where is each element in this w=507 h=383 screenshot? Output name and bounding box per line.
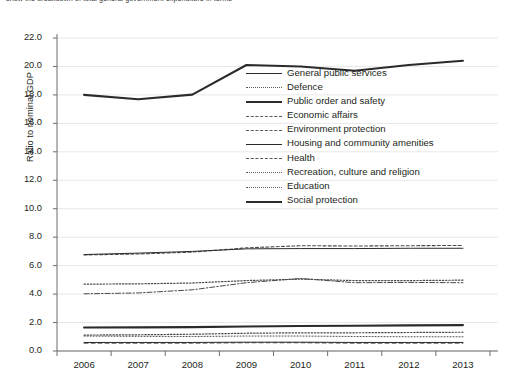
legend-item-label: Environment protection: [287, 122, 386, 136]
legend-item-label: Health: [287, 151, 315, 165]
x-axis-tick-label: 2013: [443, 360, 483, 370]
x-axis-tick-label: 2009: [226, 360, 266, 370]
legend-item[interactable]: Social protection: [246, 194, 434, 208]
y-axis-tick-label: 18.0: [8, 90, 42, 99]
legend-item-label: General public services: [287, 66, 387, 80]
y-axis-tick-label: 8.0: [8, 232, 42, 241]
y-axis-tick-label: 22.0: [8, 33, 42, 42]
chart-legend: General public servicesDefencePublic ord…: [246, 66, 434, 208]
legend-item[interactable]: Economic affairs: [246, 109, 434, 123]
legend-item[interactable]: Public order and safety: [246, 94, 434, 108]
legend-swatch-icon: [246, 153, 282, 163]
legend-item[interactable]: Environment protection: [246, 123, 434, 137]
x-axis-tick-label: 2006: [64, 360, 104, 370]
legend-item[interactable]: Housing and community amenities: [246, 137, 434, 151]
legend-item-label: Recreation, culture and religion: [287, 165, 420, 179]
chart-series-line: [84, 245, 463, 255]
chart-series-line: [84, 336, 463, 337]
legend-item-label: Housing and community amenities: [287, 136, 434, 150]
legend-item[interactable]: Recreation, culture and religion: [246, 165, 434, 179]
chart-series-line: [84, 278, 463, 293]
legend-swatch-icon: [246, 111, 282, 121]
x-axis-tick-label: 2010: [281, 360, 321, 370]
chart-series-line: [84, 325, 463, 327]
y-axis-tick-label: 2.0: [8, 318, 42, 327]
chart-series-line: [84, 332, 463, 335]
legend-item-label: Economic affairs: [287, 108, 358, 122]
y-axis-tick-label: 10.0: [8, 204, 42, 213]
legend-item[interactable]: Defence: [246, 80, 434, 94]
y-axis-tick-label: 12.0: [8, 175, 42, 184]
legend-swatch-icon: [246, 167, 282, 177]
x-axis-tick-label: 2008: [172, 360, 212, 370]
legend-swatch-icon: [246, 96, 282, 106]
legend-item-label: Social protection: [287, 193, 358, 207]
legend-swatch-icon: [246, 82, 282, 92]
x-axis-tick-label: 2012: [389, 360, 429, 370]
legend-item[interactable]: Health: [246, 151, 434, 165]
legend-swatch-icon: [246, 139, 282, 149]
chart-figure: Ratio to nominal GDP 0.02.04.06.08.010.0…: [0, 0, 507, 383]
y-axis-tick-label: 6.0: [8, 261, 42, 270]
x-axis-tick-label: 2011: [335, 360, 375, 370]
legend-swatch-icon: [246, 196, 282, 206]
legend-item[interactable]: Education: [246, 180, 434, 194]
y-axis-tick-label: 14.0: [8, 147, 42, 156]
legend-swatch-icon: [246, 125, 282, 135]
y-axis-tick-label: 4.0: [8, 289, 42, 298]
legend-swatch-icon: [246, 182, 282, 192]
legend-item-label: Public order and safety: [287, 94, 385, 108]
legend-item-label: Defence: [287, 80, 323, 94]
legend-item[interactable]: General public services: [246, 66, 434, 80]
y-axis-ticks: 0.02.04.06.08.010.012.014.016.018.020.02…: [4, 0, 42, 383]
y-axis-tick-label: 16.0: [8, 118, 42, 127]
legend-item-label: Education: [287, 179, 330, 193]
y-axis-tick-label: 0.0: [8, 346, 42, 355]
chart-series-line: [84, 279, 463, 284]
legend-swatch-icon: [246, 68, 282, 78]
x-axis-tick-label: 2007: [118, 360, 158, 370]
y-axis-tick-label: 20.0: [8, 61, 42, 70]
